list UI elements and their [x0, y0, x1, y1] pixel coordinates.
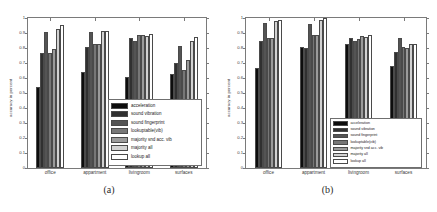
y-axis-tick-right — [426, 93, 429, 94]
y-axis-tick-right — [206, 108, 209, 109]
y-axis-tick-label: 0.4 — [237, 106, 243, 110]
x-axis-tick-top — [184, 18, 185, 21]
y-axis-tick — [243, 138, 246, 139]
legend-swatch — [111, 103, 128, 109]
x-axis-tick-label: surfaces — [395, 171, 412, 176]
legend-swatch — [333, 140, 348, 144]
legend-swatch — [111, 145, 128, 151]
y-axis-tick-label: 1 — [241, 16, 243, 20]
x-axis-tick-label: appartment — [83, 171, 106, 176]
x-axis-tick-label: livingroom — [129, 171, 150, 176]
legend-swatch — [333, 147, 348, 151]
bar — [323, 18, 327, 168]
y-axis-tick-label: 0.7 — [19, 61, 25, 65]
y-axis-tick-right — [426, 78, 429, 79]
y-axis-tick-label: 0.1 — [19, 151, 25, 155]
x-axis-tick-top — [359, 18, 360, 21]
y-axis-tick-label: 0.1 — [237, 151, 243, 155]
x-axis-tick-label: appartment — [302, 171, 325, 176]
x-axis-tick-top — [314, 18, 315, 21]
x-axis-tick-label: office — [263, 171, 274, 176]
legend-label: lookuptable(vib) — [131, 129, 163, 134]
bar — [278, 20, 282, 168]
legend-label: lookuptable(vib) — [351, 141, 376, 145]
y-axis-tick-right — [426, 33, 429, 34]
legend-label: majority snd acc. vib — [131, 138, 172, 143]
legend-label: sound fingerprint — [351, 134, 378, 138]
y-axis-tick — [243, 93, 246, 94]
y-axis-tick — [243, 33, 246, 34]
y-axis-tick — [25, 63, 28, 64]
y-axis-tick-label: 0.4 — [19, 106, 25, 110]
y-axis-tick — [243, 63, 246, 64]
y-axis-tick-right — [206, 153, 209, 154]
x-axis-tick-label: office — [45, 171, 56, 176]
y-axis-tick — [243, 123, 246, 124]
y-axis-tick — [25, 138, 28, 139]
legend-label: sound vibration — [131, 112, 162, 117]
y-axis-tick-label: 0.6 — [19, 76, 25, 80]
legend-item: lookuptable(vib) — [111, 127, 199, 136]
y-axis-tick-right — [206, 138, 209, 139]
y-axis-tick-label: 0.9 — [237, 31, 243, 35]
legend-item: lookup all — [333, 158, 419, 164]
y-axis-tick-label: 0.7 — [237, 61, 243, 65]
y-axis-tick — [25, 168, 28, 169]
y-axis-tick-label: 0.8 — [237, 46, 243, 50]
y-axis-tick-label: 0.5 — [19, 91, 25, 95]
y-axis-tick — [25, 33, 28, 34]
y-axis-tick-right — [206, 168, 209, 169]
y-axis-tick-right — [206, 48, 209, 49]
y-axis-tick-right — [426, 48, 429, 49]
y-axis-tick — [25, 48, 28, 49]
y-axis-tick — [243, 18, 246, 19]
legend-item: sound vibration — [111, 110, 199, 119]
x-axis-tick-top — [269, 18, 270, 21]
y-axis-tick-label: 0.6 — [237, 76, 243, 80]
y-axis-label-a: accuracy in percent — [9, 79, 13, 117]
y-axis-tick-right — [426, 123, 429, 124]
legend-label: sound fingerprint — [131, 121, 165, 126]
legend-swatch — [333, 134, 348, 138]
y-axis-tick-right — [206, 63, 209, 64]
y-axis-tick — [243, 153, 246, 154]
legend-label: majority all — [131, 146, 153, 151]
y-axis-tick-right — [426, 18, 429, 19]
y-axis-tick-label: 0.2 — [237, 136, 243, 140]
legend-a: accelerationsound vibrationsound fingerp… — [108, 99, 202, 166]
y-axis-tick — [25, 108, 28, 109]
y-axis-tick-right — [206, 33, 209, 34]
x-axis-tick-label: surfaces — [175, 171, 192, 176]
legend-swatch — [111, 137, 128, 143]
y-axis-tick — [243, 168, 246, 169]
x-axis-tick-top — [50, 18, 51, 21]
y-axis-tick-right — [206, 78, 209, 79]
y-axis-tick-label: 0 — [23, 166, 25, 170]
chart-panel-a: accuracy in percent 00.10.20.30.40.50.60… — [0, 0, 218, 212]
legend-item: sound fingerprint — [111, 119, 199, 128]
legend-swatch — [333, 153, 348, 157]
y-axis-tick-label: 0.9 — [19, 31, 25, 35]
legend-swatch — [111, 111, 128, 117]
legend-label: sound vibration — [351, 128, 375, 132]
legend-label: acceleration — [351, 122, 370, 126]
y-axis-tick-right — [426, 63, 429, 64]
y-axis-tick-label: 0 — [241, 166, 243, 170]
x-axis-tick-top — [139, 18, 140, 21]
y-axis-tick-right — [206, 18, 209, 19]
x-axis-tick-label: livingroom — [348, 171, 369, 176]
y-axis-tick-right — [206, 93, 209, 94]
y-axis-tick-label: 0.2 — [19, 136, 25, 140]
legend-swatch — [111, 120, 128, 126]
y-axis-tick-right — [206, 123, 209, 124]
y-axis-tick — [243, 108, 246, 109]
x-axis-tick-top — [95, 18, 96, 21]
legend-swatch — [111, 128, 128, 134]
y-axis-tick — [25, 18, 28, 19]
y-axis-tick — [25, 123, 28, 124]
y-axis-tick-label: 0.5 — [237, 91, 243, 95]
y-axis-tick-label: 0.3 — [237, 121, 243, 125]
legend-b: accelerationsound vibrationsound fingerp… — [330, 118, 422, 168]
legend-item: acceleration — [111, 102, 199, 111]
y-axis-tick — [243, 78, 246, 79]
